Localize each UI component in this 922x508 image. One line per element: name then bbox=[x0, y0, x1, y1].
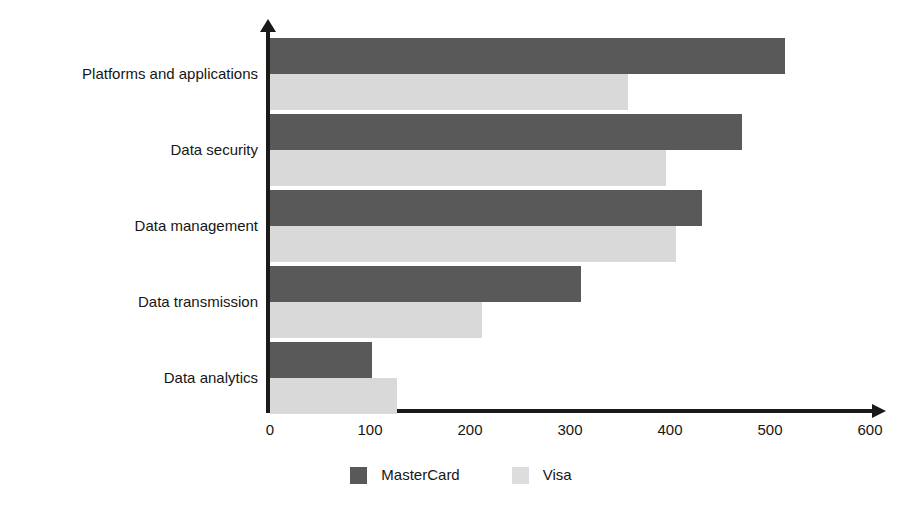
legend-swatch-mastercard-icon bbox=[350, 467, 367, 484]
bar-visa-3[interactable] bbox=[270, 302, 482, 338]
x-tick-label-500: 500 bbox=[757, 420, 782, 440]
bar-mastercard-1[interactable] bbox=[270, 114, 742, 150]
bar-visa-0[interactable] bbox=[270, 74, 628, 110]
x-axis-tick-labels: 0100200300400500600 bbox=[270, 420, 870, 444]
x-tick-label-0: 0 bbox=[266, 420, 274, 440]
bar-mastercard-2[interactable] bbox=[270, 190, 702, 226]
legend-item-visa[interactable]: Visa bbox=[512, 466, 572, 484]
bar-mastercard-3[interactable] bbox=[270, 266, 581, 302]
category-label-3: Data transmission bbox=[18, 293, 258, 311]
chart-legend: MasterCardVisa bbox=[0, 466, 922, 484]
bar-chart: Platforms and applicationsData securityD… bbox=[0, 0, 922, 508]
plot-area bbox=[270, 30, 870, 410]
category-label-1: Data security bbox=[18, 141, 258, 159]
bar-visa-1[interactable] bbox=[270, 150, 666, 186]
x-tick-label-400: 400 bbox=[657, 420, 682, 440]
x-tick-label-200: 200 bbox=[457, 420, 482, 440]
x-axis-arrow-icon bbox=[872, 404, 886, 418]
category-label-4: Data analytics bbox=[18, 369, 258, 387]
legend-label-mastercard: MasterCard bbox=[381, 466, 459, 484]
bar-visa-2[interactable] bbox=[270, 226, 676, 262]
legend-label-visa: Visa bbox=[543, 466, 572, 484]
category-label-2: Data management bbox=[18, 217, 258, 235]
x-tick-label-100: 100 bbox=[357, 420, 382, 440]
category-label-0: Platforms and applications bbox=[18, 65, 258, 83]
legend-item-mastercard[interactable]: MasterCard bbox=[350, 466, 459, 484]
x-tick-label-300: 300 bbox=[557, 420, 582, 440]
bar-mastercard-4[interactable] bbox=[270, 342, 372, 378]
x-tick-label-600: 600 bbox=[857, 420, 882, 440]
category-axis-labels: Platforms and applicationsData securityD… bbox=[12, 30, 258, 410]
bar-visa-4[interactable] bbox=[270, 378, 397, 414]
bar-mastercard-0[interactable] bbox=[270, 38, 785, 74]
legend-swatch-visa-icon bbox=[512, 467, 529, 484]
